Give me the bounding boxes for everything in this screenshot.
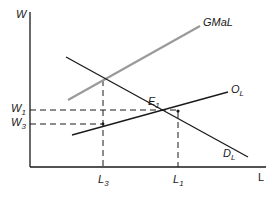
x-axis-label: L bbox=[258, 172, 264, 183]
l1-label: L1 bbox=[173, 174, 184, 188]
w1-label: W1 bbox=[11, 103, 26, 117]
y-axis-label: W bbox=[16, 9, 26, 20]
w3-label: W3 bbox=[11, 117, 26, 131]
equilibrium-point-e1 bbox=[176, 109, 179, 112]
point-w3-l3 bbox=[102, 123, 105, 126]
gmal-label: GMaL bbox=[203, 17, 233, 28]
e1-label: E1 bbox=[148, 96, 160, 110]
l3-label: L3 bbox=[98, 174, 109, 188]
diagram-canvas bbox=[0, 0, 272, 200]
ol-label: OL bbox=[231, 84, 244, 98]
dl-label: DL bbox=[223, 148, 235, 162]
gmal-curve bbox=[68, 26, 200, 100]
